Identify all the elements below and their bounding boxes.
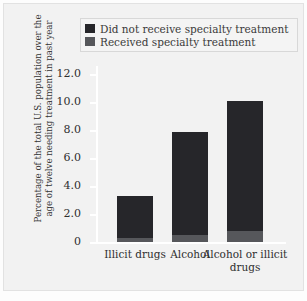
y-tick-label-10: 10.0: [41, 95, 81, 108]
bar-segment-did-not-receive: [227, 101, 263, 231]
y-tick-12: 12.0: [90, 74, 96, 76]
chart-legend: Did not receive specialty treatment Rece…: [80, 18, 298, 52]
legend-label-received: Received specialty treatment: [100, 36, 256, 48]
y-tick-label-12: 12.0: [41, 67, 81, 80]
plot-canvas: Did not receive specialty treatment Rece…: [4, 4, 303, 290]
legend-item-received: Received specialty treatment: [85, 35, 293, 48]
x-axis-line: [96, 242, 286, 244]
legend-swatch-grey: [85, 37, 95, 46]
y-tick-2: 2.0: [90, 214, 96, 216]
y-tick-label-8: 8.0: [41, 123, 81, 136]
y-axis-title: Percentage of the total U.S. population …: [33, 14, 54, 224]
frame-border-bottom: [3, 290, 304, 291]
bar-segment-received: [227, 231, 263, 242]
y-tick-4: 4.0: [90, 186, 96, 188]
y-tick-6: 6.0: [90, 158, 96, 160]
legend-label-did-not-receive: Did not receive specialty treatment: [100, 23, 288, 35]
frame-border-right: [303, 3, 304, 291]
y-tick-8: 8.0: [90, 130, 96, 132]
y-tick-10: 10.0: [90, 102, 96, 104]
y-tick-label-2: 2.0: [41, 207, 81, 220]
figure-container: Did not receive specialty treatment Rece…: [0, 0, 307, 301]
y-tick-0: 0: [90, 242, 96, 244]
bar-segment-did-not-receive: [117, 196, 153, 238]
legend-swatch-dark: [85, 24, 95, 33]
bar-segment-did-not-receive: [172, 132, 208, 235]
y-tick-label-4: 4.0: [41, 179, 81, 192]
legend-item-did-not-receive: Did not receive specialty treatment: [85, 22, 293, 35]
bar-segment-received: [117, 238, 153, 242]
y-tick-label-6: 6.0: [41, 151, 81, 164]
bar-alcohol-or-illicit-drugs[interactable]: [227, 101, 263, 242]
bar-illicit-drugs[interactable]: [117, 196, 153, 242]
bar-segment-received: [172, 235, 208, 242]
y-axis-line: [96, 66, 98, 244]
axis-area: 12.0 10.0 8.0 6.0 4.0 2.0 0: [96, 66, 286, 244]
x-label-alcohol-or-illicit-drugs: Alcohol or illicit drugs: [202, 248, 288, 273]
bar-alcohol[interactable]: [172, 132, 208, 242]
y-tick-label-0: 0: [41, 235, 81, 248]
